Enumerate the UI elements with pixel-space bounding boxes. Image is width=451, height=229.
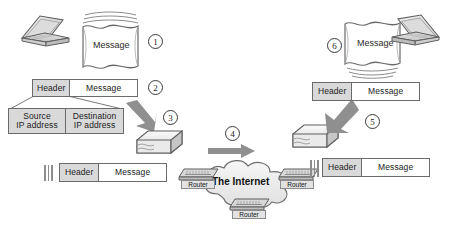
header-cell: Header [33,80,70,96]
router-bottom: Router [228,196,272,212]
received-header-cell-right: Header [323,159,362,176]
packet-slab-left [134,128,186,162]
receiver-laptop [387,10,445,62]
router-bottom-label: Router [232,210,266,219]
sender-laptop [16,12,74,62]
transmitted-row-left: Header Message [59,163,167,182]
destination-ip-line2: IP address [74,121,115,130]
message-cell: Message [70,80,137,96]
transmitted-message-cell-left: Message [99,164,166,181]
sender-message-label: Message [93,40,130,50]
source-ip-line2: IP address [16,121,57,130]
router-left-label: Router [181,180,215,189]
router-left: Router [177,166,221,182]
header-cell-right: Header [313,83,352,100]
sender-message-scroll: Message [76,8,146,80]
step-3-marker: 3 [163,110,178,125]
step-6-marker: 6 [327,38,342,53]
transmitted-header-cell-left: Header [60,164,99,181]
transmit-ticks-right [310,160,319,177]
step-1-marker: 1 [148,34,163,49]
internet-transit-arrow [208,144,256,158]
message-cell-right: Message [352,83,419,100]
header-detail-box: Source IP address Destination IP address [8,108,124,134]
received-row-right: Header Message [322,158,430,177]
header-message-row-right: Header Message [312,82,420,101]
step-4-marker: 4 [225,126,240,141]
received-message-cell-right: Message [362,159,429,176]
router-right-label: Router [280,180,314,189]
decapsulate-arrow [325,100,359,134]
step-2-marker: 2 [148,80,163,95]
step-5-marker: 5 [365,114,380,129]
header-message-row-step2: Header Message [32,79,138,97]
transmit-ticks-left [44,165,53,181]
network-diagram-canvas: Message 1 Header Message 2 Source IP add… [0,0,451,229]
